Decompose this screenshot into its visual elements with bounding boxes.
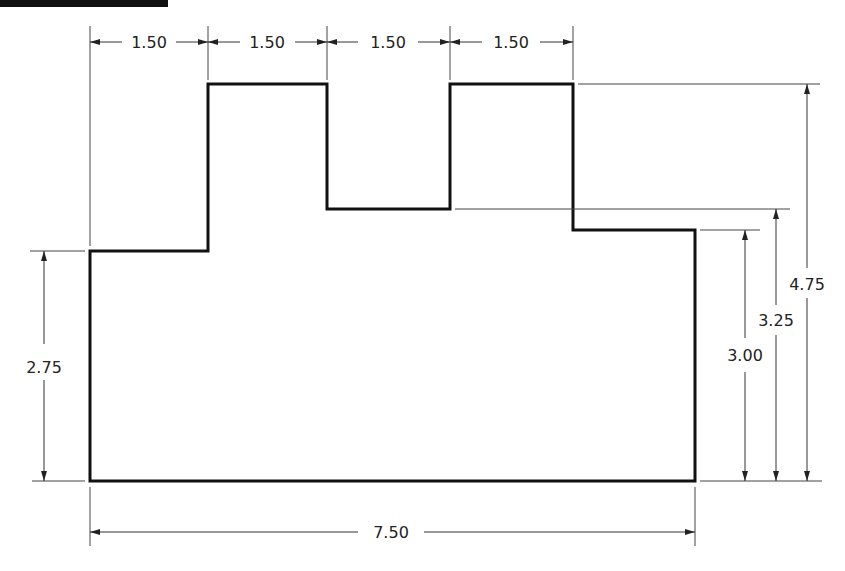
dim-right-3-00: 3.00 <box>727 346 763 365</box>
right-extension-lines <box>455 84 822 481</box>
part-outline <box>90 84 695 481</box>
dim-top-2: 1.50 <box>249 33 285 52</box>
dim-right-3-25: 3.25 <box>758 311 794 330</box>
dim-left-2-75: 2.75 <box>26 358 62 377</box>
dim-right-4-75: 4.75 <box>789 275 825 294</box>
dim-top-4: 1.50 <box>493 33 529 52</box>
technical-drawing: 1.50 1.50 1.50 1.50 3.00 3.25 4.75 2.75 … <box>0 0 845 571</box>
dim-top-3: 1.50 <box>370 33 406 52</box>
top-extension-lines <box>90 26 573 246</box>
dim-bottom-7-50: 7.50 <box>373 523 409 542</box>
dim-top-1: 1.50 <box>131 33 167 52</box>
